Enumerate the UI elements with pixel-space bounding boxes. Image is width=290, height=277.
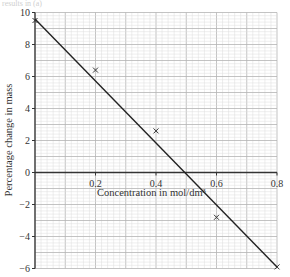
- y-tick-label: 10: [20, 7, 30, 18]
- y-tick-label: 4: [25, 103, 30, 114]
- y-tick-label: 2: [25, 135, 30, 146]
- x-tick-label: 0.8: [271, 178, 284, 189]
- x-axis-label: Concentration in mol/dm³: [97, 187, 206, 198]
- y-tick-label: 0: [25, 167, 30, 178]
- y-tick-label: 8: [25, 39, 30, 50]
- y-tick-label: −2: [19, 199, 30, 210]
- y-axis-label: Percentage change in mass: [3, 84, 14, 197]
- y-tick-label: 6: [25, 71, 30, 82]
- y-tick-label: −6: [19, 263, 30, 274]
- y-tick-label: −4: [19, 231, 30, 242]
- x-tick-label: 0.6: [210, 178, 223, 189]
- chart: results in (a) 1086420−2−4−60.20.40.60.8…: [0, 0, 290, 277]
